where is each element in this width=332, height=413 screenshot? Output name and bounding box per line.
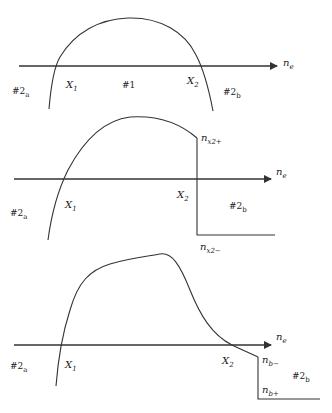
lower-value-label: nx2− [200,241,221,255]
upper-value-label: nx2+ [201,132,222,146]
x1-label: X1 [65,79,78,93]
profile-curve [56,254,258,386]
upper-value-label: nb− [262,354,279,368]
panel-2: ne #2a X1 X2 #2b nx2+ nx2− [10,117,287,255]
x1-label: X1 [64,359,77,373]
panel-3: ne #2a X1 X2 #2b nb− nb+ [10,254,320,399]
region-label-2b: #2b [229,201,247,214]
x2-label: X2 [176,189,189,203]
axis-label: ne [276,331,287,345]
profile-curve [49,18,213,111]
panel-1: ne #2a X1 #1 X2 #2b [12,18,294,111]
step-profile [197,138,275,235]
axis-label: ne [276,166,287,180]
region-label-2b: #2b [223,87,241,100]
x2-label: X2 [186,75,199,89]
axis-label: ne [283,57,294,71]
x2-label: X2 [221,355,234,369]
diagram-canvas: ne #2a X1 #1 X2 #2b ne #2a X1 X2 #2b nx2… [0,0,332,413]
region-label-2a: #2a [10,361,27,374]
region-label-1: #1 [122,80,135,90]
region-label-2b: #2b [292,371,310,384]
region-label-2a: #2a [12,86,29,99]
region-label-2a: #2a [10,208,27,221]
lower-value-label: nb+ [262,384,279,398]
x1-label: X1 [64,199,77,213]
